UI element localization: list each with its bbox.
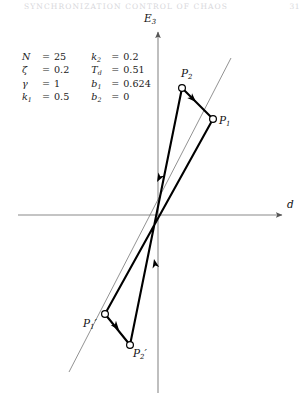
hysteresis-plot <box>0 0 308 407</box>
point-marker-P2 <box>179 85 186 92</box>
point-marker-P1-prime <box>102 311 109 318</box>
point-label-P1-prime: P1′ <box>83 317 97 329</box>
hysteresis-loop-path <box>105 88 213 345</box>
y-axis-label-text: E <box>144 12 152 24</box>
point-label-P1-sub: 1 <box>226 120 230 128</box>
y-axis-label: E3 <box>144 12 156 24</box>
point-label-P2: P2 <box>181 67 192 79</box>
point-marker-P1 <box>210 116 217 123</box>
point-label-P2-prime-mark: ′ <box>144 347 146 359</box>
point-label-P2-sub: 2 <box>188 73 192 81</box>
y-axis-label-sub: 3 <box>152 18 156 26</box>
x-axis-label: d <box>287 198 294 210</box>
point-label-P1: P1 <box>219 114 230 126</box>
point-label-P1-prime-mark: ′ <box>94 317 96 329</box>
point-label-P2-prime: P2′ <box>133 347 147 359</box>
figure-page: SYNCHRONIZATION CONTROL OF CHAOS 31 N = … <box>0 0 308 407</box>
